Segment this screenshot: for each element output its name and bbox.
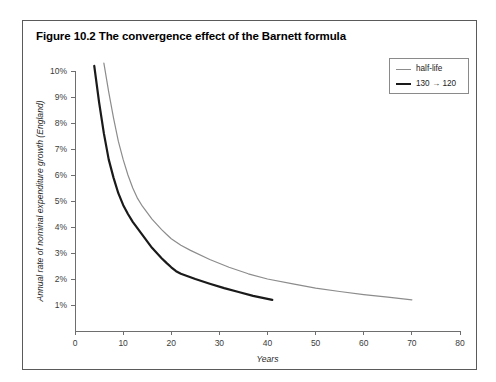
y-tick-label-4: 4% [55, 222, 68, 232]
x-tick-label-10: 10 [118, 338, 128, 348]
x-axis-title: Years [257, 354, 280, 364]
x-tick-label-40: 40 [263, 338, 273, 348]
x-tick-label-50: 50 [311, 338, 321, 348]
series-line-130-to-120 [94, 66, 272, 300]
x-tick-label-0: 0 [73, 338, 78, 348]
y-tick-label-6: 6% [55, 170, 68, 180]
y-tick-label-10: 10% [50, 66, 67, 76]
y-tick-label-7: 7% [55, 144, 68, 154]
x-tick-label-20: 20 [167, 338, 177, 348]
x-tick-label-70: 70 [407, 338, 417, 348]
legend-swatch-half-life [396, 69, 411, 70]
x-tick-label-60: 60 [359, 338, 369, 348]
legend-swatch-130-to-120 [396, 83, 411, 85]
x-tick-label-30: 30 [215, 338, 225, 348]
chart-legend: half-life 130 → 120 [389, 58, 469, 94]
series-line-half-life [104, 63, 412, 300]
legend-label-130-to-120: 130 → 120 [416, 79, 456, 89]
legend-entry-half-life: half-life [396, 64, 442, 74]
figure-frame: Figure 10.2 The convergence effect of th… [22, 20, 477, 370]
y-axis-title: Annual rate of nominal expenditure growt… [35, 100, 45, 302]
y-tick-label-5: 5% [55, 196, 68, 206]
legend-entry-130-to-120: 130 → 120 [396, 79, 456, 89]
y-tick-label-9: 9% [55, 92, 68, 102]
legend-label-half-life: half-life [416, 64, 442, 74]
y-tick-label-1: 1% [55, 300, 68, 310]
y-tick-label-2: 2% [55, 274, 68, 284]
y-tick-label-8: 8% [55, 118, 68, 128]
x-tick-label-80: 80 [455, 338, 465, 348]
y-tick-label-3: 3% [55, 248, 68, 258]
